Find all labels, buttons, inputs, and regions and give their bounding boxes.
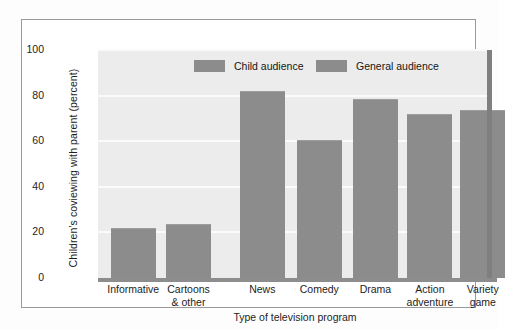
x-axis-baseline (98, 278, 497, 282)
bar-drama (353, 99, 398, 278)
x-tick-line2: & other (144, 296, 234, 309)
figure-frame: Children's coviewing with parent (percen… (21, 19, 476, 308)
y-axis-title: Children's coviewing with parent (percen… (67, 53, 79, 283)
legend-swatch-general-audience (316, 60, 347, 72)
x-tick-label-variety: Varietygame (438, 283, 509, 308)
legend-entry-child-audience: Child audience (194, 58, 303, 74)
plot-right-edge-strip (487, 50, 492, 278)
plot-area (98, 50, 492, 278)
legend-entry-general-audience: General audience (316, 58, 439, 74)
x-axis-title: Type of television program (98, 311, 492, 323)
y-tick-label-80: 80 (4, 89, 44, 101)
x-tick-line2: game (438, 296, 509, 309)
gridline-100 (98, 49, 487, 51)
chart-legend: Child audienceGeneral audience (98, 58, 492, 74)
bar-variety-game (460, 110, 505, 278)
legend-label: Child audience (234, 60, 303, 72)
bar-action-adventure (407, 114, 452, 278)
legend-label: General audience (356, 60, 439, 72)
bar-comedy (297, 140, 342, 278)
bar-news (240, 91, 285, 278)
y-tick-label-40: 40 (4, 180, 44, 192)
legend-swatch-child-audience (194, 60, 225, 72)
gridline-80 (98, 95, 487, 97)
y-tick-label-20: 20 (4, 225, 44, 237)
y-tick-label-100: 100 (4, 43, 44, 55)
x-tick-line1: Variety (438, 283, 509, 296)
bar-cartoons-other (166, 224, 211, 278)
y-tick-label-0: 0 (4, 271, 44, 283)
bar-informative (111, 228, 156, 278)
y-tick-label-60: 60 (4, 134, 44, 146)
